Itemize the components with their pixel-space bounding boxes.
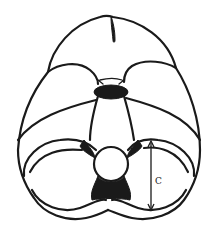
right-temporal-fold — [126, 98, 200, 140]
left-temporal-fold — [18, 100, 96, 140]
brain-base-diagram: C — [0, 0, 216, 238]
brainstem-left — [90, 96, 98, 140]
longitudinal-fissure — [111, 16, 115, 42]
left-temporal-lobe — [48, 64, 98, 84]
measurement-arrow-c — [148, 141, 154, 210]
hypothalamus-region — [94, 85, 128, 99]
optic-chiasm — [98, 79, 124, 85]
measurement-label-c: C — [155, 176, 162, 186]
brainstem-right — [124, 96, 134, 140]
vermis-dark-region — [91, 176, 130, 200]
right-temporal-lobe — [124, 62, 176, 82]
left-cerebellar-inner — [30, 150, 82, 172]
medulla — [94, 147, 128, 181]
